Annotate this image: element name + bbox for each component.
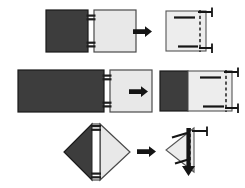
row-2-after [160, 68, 238, 114]
row-1-hinge-mark-top-b [87, 18, 96, 20]
row-1-hinge-mark-bottom-a [87, 42, 96, 44]
row-3-hinge-mark-bottom-b [91, 176, 101, 178]
fold-diagram-container [0, 0, 245, 188]
row-2-hinge-mark-top-a [103, 75, 112, 77]
row-1-dark-panel [46, 10, 88, 52]
row-1-light-panel [94, 10, 136, 52]
fold-diagram [0, 0, 245, 188]
row-3-hinge-mark-top-b [91, 129, 101, 131]
row-2-dark-panel [18, 70, 104, 112]
row-3-hinge-mark-bottom-a [91, 173, 101, 175]
row-3-hinge-mark-top-a [91, 125, 101, 127]
row-2-hinge-mark-bottom-b [103, 105, 112, 107]
row-3-hinge-spine [92, 124, 100, 180]
row-1-hinge-mark-top-a [87, 15, 96, 17]
row-1-after [166, 8, 212, 54]
row-2-hinge-mark-top-b [103, 78, 112, 80]
row-2-hinge-mark-bottom-a [103, 102, 112, 104]
row-2-folded-dark-part [160, 71, 188, 111]
row-1-hinge-mark-bottom-b [87, 45, 96, 47]
